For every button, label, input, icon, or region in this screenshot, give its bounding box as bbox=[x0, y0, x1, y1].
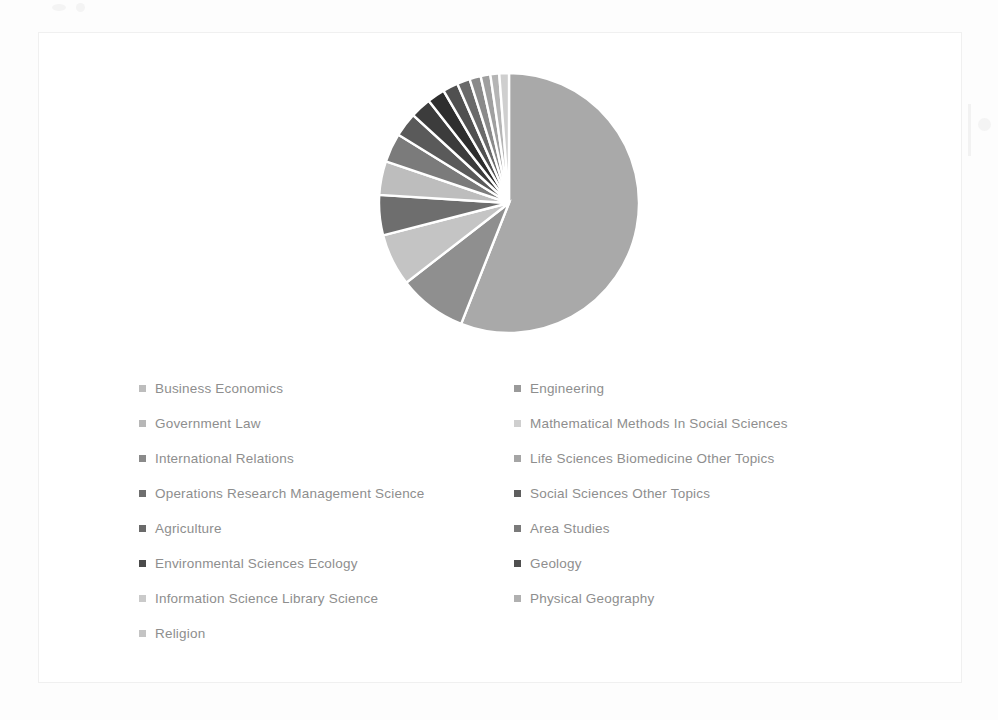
legend-column-left: Business EconomicsGovernment LawInternat… bbox=[139, 371, 509, 651]
legend-column-right: EngineeringMathematical Methods In Socia… bbox=[514, 371, 944, 616]
legend-item[interactable]: Religion bbox=[139, 616, 509, 651]
legend-color-swatch-icon bbox=[139, 595, 146, 602]
scan-artifact-streak bbox=[968, 104, 971, 156]
legend-item-label: Engineering bbox=[530, 382, 604, 396]
legend-item[interactable]: Physical Geography bbox=[514, 581, 944, 616]
chart-frame: Business EconomicsGovernment LawInternat… bbox=[38, 32, 962, 683]
legend-color-swatch-icon bbox=[139, 420, 146, 427]
legend-item-label: Government Law bbox=[155, 417, 261, 431]
legend-color-swatch-icon bbox=[514, 560, 521, 567]
legend-color-swatch-icon bbox=[514, 525, 521, 532]
legend-color-swatch-icon bbox=[139, 525, 146, 532]
scan-artifact-speck bbox=[52, 4, 66, 11]
legend-color-swatch-icon bbox=[139, 385, 146, 392]
legend-item[interactable]: Life Sciences Biomedicine Other Topics bbox=[514, 441, 944, 476]
legend-color-swatch-icon bbox=[139, 455, 146, 462]
legend-color-swatch-icon bbox=[139, 560, 146, 567]
legend-item[interactable]: Environmental Sciences Ecology bbox=[139, 546, 509, 581]
legend-item-label: Social Sciences Other Topics bbox=[530, 487, 710, 501]
legend-item-label: Information Science Library Science bbox=[155, 592, 378, 606]
legend-color-swatch-icon bbox=[139, 630, 146, 637]
legend-item[interactable]: Geology bbox=[514, 546, 944, 581]
legend-item[interactable]: Engineering bbox=[514, 371, 944, 406]
legend-item-label: International Relations bbox=[155, 452, 294, 466]
legend-item-label: Religion bbox=[155, 627, 205, 641]
scan-artifact-speck bbox=[978, 118, 991, 131]
legend-item-label: Agriculture bbox=[155, 522, 222, 536]
legend-item-label: Environmental Sciences Ecology bbox=[155, 557, 358, 571]
scan-artifact-speck bbox=[76, 3, 85, 12]
legend-item[interactable]: Information Science Library Science bbox=[139, 581, 509, 616]
legend-item-label: Mathematical Methods In Social Sciences bbox=[530, 417, 788, 431]
legend-item[interactable]: International Relations bbox=[139, 441, 509, 476]
legend-color-swatch-icon bbox=[514, 490, 521, 497]
legend-item-label: Area Studies bbox=[530, 522, 610, 536]
legend-item-label: Physical Geography bbox=[530, 592, 654, 606]
legend-item[interactable]: Operations Research Management Science bbox=[139, 476, 509, 511]
legend-item-label: Geology bbox=[530, 557, 582, 571]
legend-item[interactable]: Social Sciences Other Topics bbox=[514, 476, 944, 511]
pie-chart-svg bbox=[379, 63, 639, 343]
legend-color-swatch-icon bbox=[514, 385, 521, 392]
legend-item[interactable]: Agriculture bbox=[139, 511, 509, 546]
legend-item-label: Business Economics bbox=[155, 382, 283, 396]
pie-chart bbox=[379, 63, 639, 343]
legend-item[interactable]: Area Studies bbox=[514, 511, 944, 546]
legend-item-label: Life Sciences Biomedicine Other Topics bbox=[530, 452, 774, 466]
legend-color-swatch-icon bbox=[514, 595, 521, 602]
legend-item[interactable]: Mathematical Methods In Social Sciences bbox=[514, 406, 944, 441]
legend-item[interactable]: Business Economics bbox=[139, 371, 509, 406]
legend-item-label: Operations Research Management Science bbox=[155, 487, 425, 501]
legend-color-swatch-icon bbox=[514, 455, 521, 462]
legend-item[interactable]: Government Law bbox=[139, 406, 509, 441]
legend-color-swatch-icon bbox=[139, 490, 146, 497]
legend-color-swatch-icon bbox=[514, 420, 521, 427]
pie-slice-group bbox=[379, 73, 639, 333]
